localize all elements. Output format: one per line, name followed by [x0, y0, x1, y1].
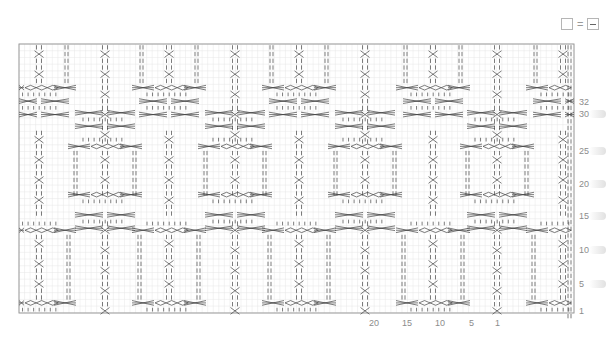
label-shadow: [589, 110, 606, 118]
label-shadow: [589, 180, 606, 188]
label-shadow: [589, 147, 606, 155]
label-shadow: [589, 280, 606, 288]
column-label: 5: [469, 318, 474, 328]
label-shadow: [589, 246, 606, 254]
row-label: 32: [579, 97, 589, 107]
column-label: 15: [402, 318, 412, 328]
column-label: 10: [435, 318, 445, 328]
row-label: 15: [579, 211, 589, 221]
row-label: 25: [579, 146, 589, 156]
row-label: 5: [579, 279, 584, 289]
row-label: 1: [579, 306, 584, 316]
row-label: 20: [579, 179, 589, 189]
label-shadow: [589, 212, 606, 220]
row-label: 30: [579, 109, 589, 119]
row-label: 10: [579, 245, 589, 255]
column-label: 1: [495, 318, 500, 328]
column-label: 20: [369, 318, 379, 328]
knitting-chart: [0, 0, 606, 340]
